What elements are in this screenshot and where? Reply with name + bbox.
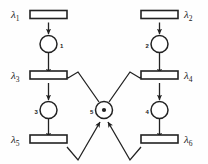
transition-t3[interactable]	[30, 71, 67, 79]
transition-t5[interactable]	[30, 135, 67, 143]
transition-label-t2: λ2	[183, 8, 193, 23]
petri-net-diagram: 1 2 3 4 5 λ1 λ2 λ3 λ4 λ5 λ6	[0, 0, 208, 164]
place-label-p1: 1	[60, 43, 64, 49]
arc-t5-to-p5	[67, 122, 100, 160]
token-marking-p5	[102, 108, 106, 112]
transition-t4[interactable]	[141, 71, 178, 79]
lambda-subscript-t2: 2	[189, 14, 193, 23]
petri-net-canvas: 1 2 3 4 5 λ1 λ2 λ3 λ4 λ5 λ6	[0, 0, 208, 164]
place-label-p3: 3	[35, 109, 39, 115]
lambda-subscript-t1: 1	[16, 14, 20, 23]
lambda-subscript-t4: 4	[189, 75, 193, 84]
transition-label-t5: λ5	[10, 133, 20, 148]
transition-t2[interactable]	[141, 11, 178, 19]
transition-t1[interactable]	[30, 11, 67, 19]
transition-label-t3: λ3	[10, 69, 20, 84]
lambda-subscript-t6: 6	[189, 139, 193, 148]
transition-t6[interactable]	[141, 135, 178, 143]
place-p1[interactable]	[40, 36, 57, 53]
place-label-p4: 4	[146, 109, 150, 115]
transition-label-t1: λ1	[10, 8, 20, 23]
lambda-subscript-t3: 3	[16, 75, 20, 84]
place-p4[interactable]	[151, 102, 168, 119]
arc-t6-to-p5	[108, 122, 141, 160]
place-label-p5: 5	[90, 109, 94, 115]
place-label-p2: 2	[146, 43, 150, 49]
transition-label-t4: λ4	[183, 69, 193, 84]
lambda-subscript-t5: 5	[16, 139, 20, 148]
place-p3[interactable]	[40, 102, 57, 119]
place-p2[interactable]	[151, 36, 168, 53]
transition-label-t6: λ6	[183, 133, 193, 148]
